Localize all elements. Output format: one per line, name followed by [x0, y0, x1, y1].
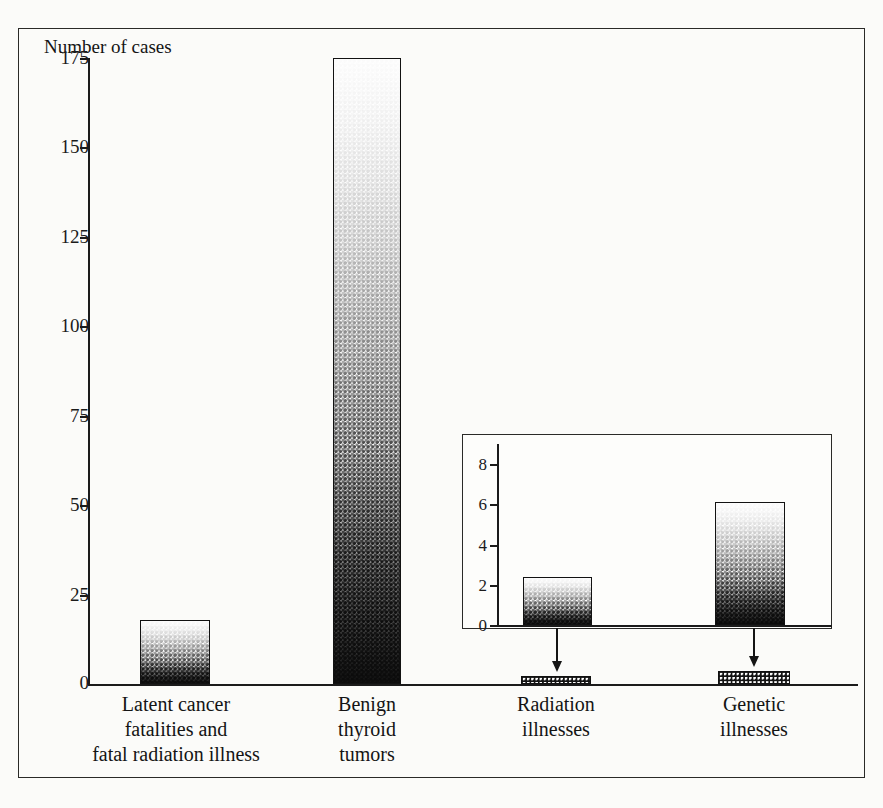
- x-label-latent-cancer: Latent cancer fatalities and fatal radia…: [45, 692, 307, 767]
- inset-y-tick-label-0: 0: [462, 617, 487, 634]
- inset-y-tick-label-6: 6: [462, 496, 487, 513]
- inset-bar-genetic-illnesses: [715, 502, 785, 625]
- inset-x-axis-line: [497, 625, 832, 627]
- x-label-benign-thyroid-line2: thyroid: [300, 717, 434, 742]
- x-label-latent-cancer-line3: fatal radiation illness: [45, 742, 307, 767]
- y-tick-label-175: 175: [35, 48, 89, 67]
- bar-genetic-illnesses: [718, 671, 790, 684]
- x-label-latent-cancer-line2: fatalities and: [45, 717, 307, 742]
- inset-y-tick-0: [490, 625, 498, 627]
- x-label-genetic-illnesses-line1: Genetic: [678, 692, 830, 717]
- bar-benign-thyroid-tumors: [333, 58, 401, 684]
- x-label-radiation-illnesses-line2: illnesses: [480, 717, 632, 742]
- arrow-head-genetic: [749, 656, 759, 667]
- bar-latent-cancer-fatalities: [140, 620, 210, 684]
- arrow-stem-genetic: [753, 628, 755, 657]
- inset-y-tick-2: [490, 585, 498, 587]
- inset-bar-radiation-illnesses: [523, 577, 592, 625]
- x-label-genetic-illnesses-line2: illnesses: [678, 717, 830, 742]
- y-tick-label-0: 0: [35, 673, 89, 692]
- x-label-genetic-illnesses: Genetic illnesses: [678, 692, 830, 742]
- arrow-stem-radiation: [556, 628, 558, 662]
- bar-chart: Number of cases 175 150 125 100 75 50 25…: [0, 0, 883, 808]
- x-axis-line: [88, 684, 858, 686]
- y-tick-label-75: 75: [35, 406, 89, 425]
- bar-radiation-illnesses: [521, 676, 591, 684]
- y-tick-label-150: 150: [35, 137, 89, 156]
- inset-y-tick-label-4: 4: [462, 537, 487, 554]
- y-tick-label-50: 50: [35, 495, 89, 514]
- x-label-radiation-illnesses-line1: Radiation: [480, 692, 632, 717]
- x-label-latent-cancer-line1: Latent cancer: [45, 692, 307, 717]
- x-label-benign-thyroid: Benign thyroid tumors: [300, 692, 434, 767]
- y-tick-label-100: 100: [35, 316, 89, 335]
- x-label-benign-thyroid-line1: Benign: [300, 692, 434, 717]
- x-label-radiation-illnesses: Radiation illnesses: [480, 692, 632, 742]
- x-label-benign-thyroid-line3: tumors: [300, 742, 434, 767]
- inset-y-axis-line: [497, 444, 499, 626]
- y-tick-label-25: 25: [35, 585, 89, 604]
- y-tick-label-125: 125: [35, 227, 89, 246]
- inset-y-tick-6: [490, 504, 498, 506]
- inset-y-tick-label-2: 2: [462, 577, 487, 594]
- arrow-head-radiation: [552, 661, 562, 672]
- inset-y-tick-4: [490, 545, 498, 547]
- inset-y-tick-label-8: 8: [462, 456, 487, 473]
- inset-y-tick-8: [490, 464, 498, 466]
